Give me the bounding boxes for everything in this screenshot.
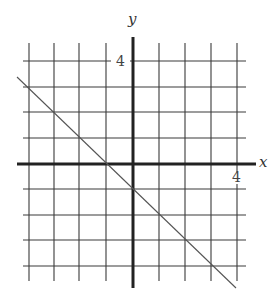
y-tick-label-4: 4 bbox=[116, 53, 125, 69]
x-axis-label: x bbox=[259, 153, 268, 171]
plotted-line bbox=[17, 77, 236, 288]
y-axis-label: y bbox=[127, 10, 137, 28]
coordinate-graph: y x 4 4 bbox=[0, 0, 279, 299]
x-tick-label-4: 4 bbox=[232, 169, 241, 185]
